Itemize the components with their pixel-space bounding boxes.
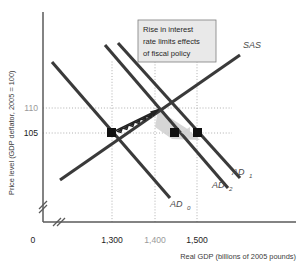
tick-label-x-0: 0 bbox=[31, 235, 36, 245]
annotation-note: Rise in interest rate limits effects of … bbox=[138, 20, 216, 62]
tick-label-x-1400: 1,400 bbox=[144, 235, 166, 245]
tick-label-y-110: 110 bbox=[24, 103, 38, 113]
point-crowded-out-equilibrium bbox=[170, 128, 179, 137]
point-initial-equilibrium bbox=[107, 128, 116, 137]
curve-label-sas: SAS bbox=[243, 40, 261, 50]
curve-label-ad2-group: AD 2 bbox=[211, 180, 233, 192]
chart-container: 110 105 0 1,300 1,400 1,500 Price level … bbox=[0, 0, 300, 265]
point-full-multiplier-equilibrium bbox=[193, 128, 202, 137]
curve-label-ad2-sub: 2 bbox=[228, 185, 233, 192]
curve-label-ad0: AD bbox=[169, 199, 183, 209]
y-axis-title: Price level (GDP deflator, 2005 = 100) bbox=[7, 70, 16, 195]
x-axis-title: Real GDP (billions of 2005 pounds) bbox=[180, 252, 296, 261]
annotation-note-line1: Rise in interest bbox=[143, 25, 194, 34]
zigzag-arrow bbox=[115, 109, 160, 133]
curve-ad2 bbox=[105, 45, 228, 188]
tick-label-x-1500: 1,500 bbox=[186, 235, 208, 245]
curve-label-ad1-sub: 1 bbox=[249, 172, 252, 179]
curve-label-ad1: AD bbox=[231, 167, 245, 177]
curve-label-ad1-group: AD 1 bbox=[231, 167, 252, 179]
curve-label-ad0-group: AD 0 bbox=[169, 199, 191, 211]
tick-label-x-1300: 1,300 bbox=[101, 235, 123, 245]
economics-ad-sas-chart: 110 105 0 1,300 1,400 1,500 Price level … bbox=[0, 0, 300, 265]
annotation-note-line3: of fiscal policy bbox=[143, 49, 190, 58]
curve-label-ad0-sub: 0 bbox=[187, 204, 191, 211]
tick-label-y-105: 105 bbox=[24, 128, 39, 138]
curve-label-ad2: AD bbox=[211, 180, 225, 190]
curves bbox=[52, 43, 240, 198]
annotation-note-line2: rate limits effects bbox=[143, 37, 200, 46]
